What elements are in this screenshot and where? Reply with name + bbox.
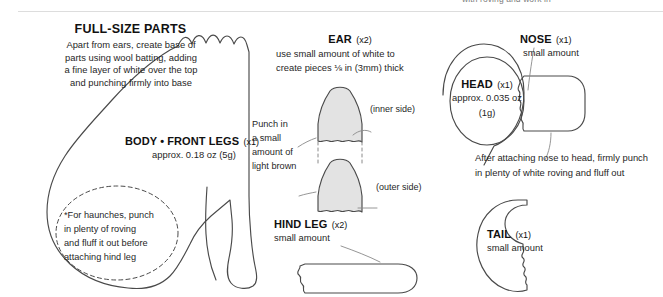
nose-part-heading: NOSE (x1) xyxy=(520,29,572,47)
ear-part-label: EAR xyxy=(328,33,352,45)
head-part-qty: (x1) xyxy=(497,80,513,90)
leader-light-brown-2 xyxy=(299,192,316,196)
light-brown-note-line-3: amount of xyxy=(252,146,293,158)
ear-outer-side-label: (outer side) xyxy=(376,182,422,192)
intro-line-1: Apart from ears, create base of xyxy=(6,39,256,52)
body-part-heading: BODY • FRONT LEGS (x1) xyxy=(125,131,259,149)
intro-line-2: parts using wool batting, adding xyxy=(6,52,256,65)
leader-light-brown xyxy=(298,138,316,147)
leader-hind-leg xyxy=(341,246,380,262)
head-amount-line-1: approx. 0.035 oz xyxy=(432,92,542,105)
ear-inner-shape xyxy=(318,87,362,142)
ear-note-line-1: use small amount of white to xyxy=(276,48,395,61)
ear-outer-shape xyxy=(318,159,362,212)
ear-part-qty: (x2) xyxy=(356,35,372,45)
light-brown-note-line-4: light brown xyxy=(252,160,296,172)
tail-part-amount: small amount xyxy=(487,242,543,255)
nose-part-label: NOSE xyxy=(520,33,552,45)
ear-note-line-2: create pieces ⅛ in (3mm) thick xyxy=(276,62,404,75)
intro-line-3: a fine layer of white over the top xyxy=(6,64,256,77)
hind-leg-part-label: HIND LEG xyxy=(274,218,327,230)
haunches-note-line-1: *For haunches, punch xyxy=(64,209,154,221)
nose-instruction-line-1: After attaching nose to head, firmly pun… xyxy=(475,152,648,165)
ear-part-heading: EAR (x2) xyxy=(310,29,390,47)
head-amount-line-2: (1g) xyxy=(432,107,542,120)
nose-part-amount: small amount xyxy=(523,47,579,60)
hind-leg-part-amount: small amount xyxy=(274,232,330,245)
head-part-label: HEAD xyxy=(461,78,493,90)
hind-leg-part-qty: (x2) xyxy=(332,220,348,230)
hind-leg-outline xyxy=(298,264,417,293)
hind-leg-part-heading: HIND LEG (x2) xyxy=(274,214,347,232)
front-leg-divider-line xyxy=(206,187,216,280)
head-part-heading: HEAD (x1) xyxy=(440,74,534,92)
tail-part-qty: (x1) xyxy=(515,230,531,240)
tail-part-label: TAIL xyxy=(487,228,511,240)
body-part-amount: approx. 0.18 oz (5g) xyxy=(152,149,236,162)
intro-line-4: and punching firmly into base xyxy=(6,77,256,90)
ear-inner-side-label: (inner side) xyxy=(370,104,415,114)
body-part-label: BODY • FRONT LEGS xyxy=(125,135,239,147)
tail-part-heading: TAIL (x1) xyxy=(487,224,531,242)
haunches-note-line-4: attaching hind leg xyxy=(64,251,136,263)
light-brown-note-line-2: a small xyxy=(252,132,281,144)
haunches-note-line-3: and fluff it out before xyxy=(64,237,148,249)
nose-part-qty: (x1) xyxy=(556,35,572,45)
nose-instruction-line-2: in plenty of white roving and fluff out xyxy=(475,167,624,180)
light-brown-note-line-1: Punch in xyxy=(252,118,288,130)
page-title: FULL-SIZE PARTS xyxy=(28,22,233,36)
pattern-page: with roving and work in xyxy=(0,0,663,297)
haunches-note-line-2: in plenty of roving xyxy=(64,223,136,235)
